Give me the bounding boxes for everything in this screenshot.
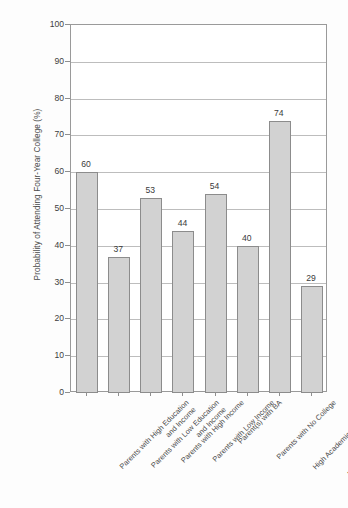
y-tick-mark-30 xyxy=(65,282,70,283)
x-tick-mark xyxy=(215,392,216,396)
bar xyxy=(108,257,130,393)
x-tick-mark xyxy=(247,392,248,396)
x-tick-mark xyxy=(311,392,312,396)
y-tick-mark-60 xyxy=(65,171,70,172)
bar xyxy=(205,194,227,393)
y-tick-mark-10 xyxy=(65,355,70,356)
y-tick-mark-90 xyxy=(65,61,70,62)
y-tick-label-0: 0 xyxy=(24,387,64,397)
bar xyxy=(140,198,162,393)
x-tick-mark xyxy=(150,392,151,396)
y-tick-label-40: 40 xyxy=(24,240,64,250)
y-tick-mark-80 xyxy=(65,98,70,99)
bar-value-label: 54 xyxy=(210,181,220,191)
bar-value-label: 37 xyxy=(113,244,123,254)
gridline-90 xyxy=(71,62,326,63)
bar xyxy=(172,231,194,393)
y-tick-mark-100 xyxy=(65,24,70,25)
bar xyxy=(76,172,98,393)
bar-chart: Probability of Attending Four-Year Colle… xyxy=(0,0,348,508)
y-tick-mark-70 xyxy=(65,134,70,135)
bar-value-label: 40 xyxy=(242,233,252,243)
bar xyxy=(237,246,259,393)
y-tick-label-70: 70 xyxy=(24,129,64,139)
y-tick-label-50: 50 xyxy=(24,203,64,213)
y-axis-title: Probability of Attending Four-Year Colle… xyxy=(33,90,42,300)
y-tick-label-60: 60 xyxy=(24,166,64,176)
y-tick-label-10: 10 xyxy=(24,350,64,360)
gridline-80 xyxy=(71,99,326,100)
bar xyxy=(301,286,323,393)
bar-value-label: 60 xyxy=(81,159,91,169)
x-tick-mark xyxy=(182,392,183,396)
y-tick-label-20: 20 xyxy=(24,313,64,323)
y-tick-label-80: 80 xyxy=(24,93,64,103)
bar-value-label: 29 xyxy=(306,273,316,283)
y-tick-mark-0 xyxy=(65,392,70,393)
bar xyxy=(269,121,291,393)
bar-value-label: 74 xyxy=(274,108,284,118)
y-tick-label-90: 90 xyxy=(24,56,64,66)
bar-value-label: 44 xyxy=(178,218,188,228)
x-tick-mark xyxy=(279,392,280,396)
y-tick-mark-20 xyxy=(65,318,70,319)
y-tick-mark-40 xyxy=(65,245,70,246)
y-tick-label-30: 30 xyxy=(24,277,64,287)
y-tick-label-100: 100 xyxy=(24,19,64,29)
x-tick-mark xyxy=(118,392,119,396)
x-tick-mark xyxy=(86,392,87,396)
plot-area xyxy=(70,24,327,392)
y-tick-mark-50 xyxy=(65,208,70,209)
bar-value-label: 53 xyxy=(146,185,156,195)
